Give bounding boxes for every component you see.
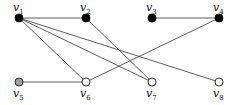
node-label-v4: v4 <box>213 2 224 16</box>
node-v6 <box>82 78 90 86</box>
node-label-v5: v5 <box>13 88 24 102</box>
node-label-v2: v2 <box>80 2 91 16</box>
edge-v1-v6 <box>19 18 86 82</box>
node-v5 <box>15 78 23 86</box>
edges-group <box>19 18 219 82</box>
graph-diagram <box>0 0 235 105</box>
node-label-v8: v8 <box>213 88 224 102</box>
edge-v4-v6 <box>86 18 219 82</box>
node-label-v3: v3 <box>146 2 157 16</box>
node-v7 <box>148 78 156 86</box>
edge-v2-v7 <box>86 18 152 82</box>
node-label-v1: v1 <box>13 2 24 16</box>
node-v8 <box>215 78 223 86</box>
node-label-v6: v6 <box>80 88 91 102</box>
node-label-v7: v7 <box>146 88 157 102</box>
edge-v1-v7 <box>19 18 152 82</box>
